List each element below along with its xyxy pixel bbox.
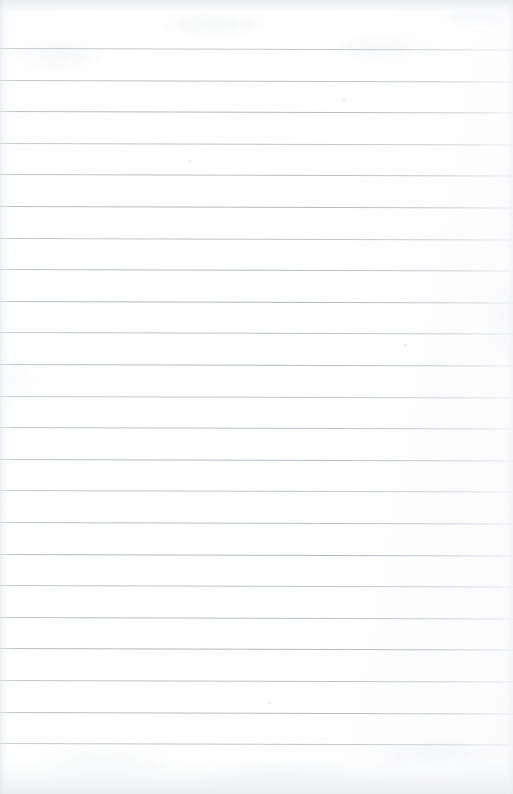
page-writing-area[interactable]	[0, 0, 513, 794]
notebook-page: Blank lined notebook page	[0, 0, 513, 794]
